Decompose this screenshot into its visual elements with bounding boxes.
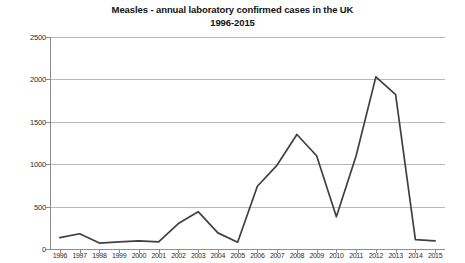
plot-area [50,37,445,249]
series-polyline [60,77,435,243]
chart-title-line1: Measles - annual laboratory confirmed ca… [112,4,354,15]
y-axis-label: 500 [2,202,46,211]
gridline [50,249,445,250]
chart-title: Measles - annual laboratory confirmed ca… [0,3,465,29]
y-axis-tick [45,249,51,250]
y-axis-label: 1000 [2,160,46,169]
y-axis-label: 2500 [2,33,46,42]
y-axis-labels: 05001000150020002500 [0,0,46,263]
y-axis-tick [45,37,51,38]
y-axis-label: 2000 [2,75,46,84]
y-axis-label: 1500 [2,117,46,126]
y-axis-tick [45,79,51,80]
y-axis-tick [45,164,51,165]
measles-line-chart: Measles - annual laboratory confirmed ca… [0,0,465,263]
y-axis-tick [45,122,51,123]
y-axis-tick [45,207,51,208]
x-axis-label: 2015 [422,252,448,259]
chart-title-line2: 1996-2015 [0,16,465,29]
series-line-chart [50,37,445,249]
y-axis-label: 0 [2,245,46,254]
